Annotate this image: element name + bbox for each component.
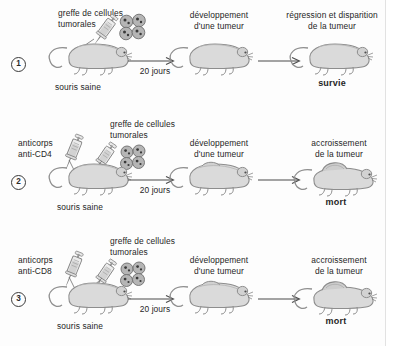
- healthy-mouse-label-1: souris saine: [30, 82, 126, 93]
- tumor-development-label-2: développement d'une tumeur: [164, 138, 274, 159]
- healthy-mouse-label-3: souris saine: [32, 321, 128, 332]
- diagram-sheet: 1 greffe de cellules tumorales souris sa…: [0, 0, 398, 346]
- experiment-row-1: 1 greffe de cellules tumorales souris sa…: [0, 0, 398, 112]
- mouse-icon: [47, 40, 135, 80]
- tumor-development-label-1: développement d'une tumeur: [164, 10, 274, 31]
- outcome-label-3: accroissement de la tumeur: [286, 255, 392, 276]
- outcome-label-2: accroissement de la tumeur: [286, 138, 392, 159]
- tumor-cell-cluster-icon: [117, 13, 149, 43]
- mouse-icon: [168, 40, 256, 80]
- experiment-number-3: 3: [11, 292, 26, 307]
- experiment-row-2: 2 anticorps anti-CD4 greffe de cellules …: [0, 112, 398, 229]
- mouse-icon: [47, 160, 135, 200]
- mouse-icon: [168, 279, 256, 319]
- mouse-icon: [168, 160, 256, 200]
- mouse-icon: [47, 279, 135, 319]
- graft-label-2: greffe de cellules tumorales: [110, 119, 230, 140]
- page-margin: [386, 0, 398, 346]
- healthy-mouse-label-2: souris saine: [32, 202, 128, 213]
- tumor-development-label-3: développement d'une tumeur: [164, 255, 274, 276]
- mouse-icon: [288, 40, 376, 80]
- mouse-icon: [292, 160, 380, 200]
- experiment-row-3: 3 anticorps anti-CD8 greffe de cellules …: [0, 229, 398, 346]
- outcome-label-1: régression et disparition de la tumeur: [272, 10, 392, 31]
- experiment-number-1: 1: [11, 57, 26, 72]
- graft-label-3: greffe de cellules tumorales: [110, 236, 230, 257]
- mouse-icon: [292, 279, 380, 319]
- experiment-number-2: 2: [11, 175, 26, 190]
